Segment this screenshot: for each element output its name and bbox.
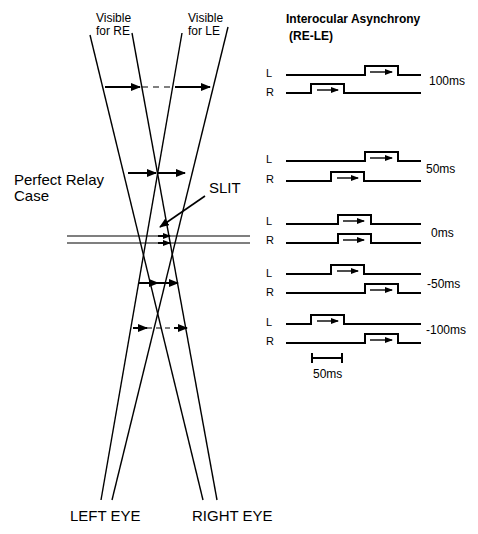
asynchrony-label: 50ms <box>426 163 455 176</box>
relay-diagram <box>0 0 478 534</box>
re-left-line <box>90 35 203 500</box>
scale-bar-label: 50ms <box>313 368 342 381</box>
trace-label-r: R <box>266 287 274 299</box>
motion-arrows <box>105 87 210 328</box>
trace-label-l: L <box>266 317 272 329</box>
asynchrony-label: -50ms <box>427 278 460 291</box>
trace-label-r: R <box>266 174 274 186</box>
trace-label-r: R <box>266 336 274 348</box>
sight-lines <box>90 27 228 500</box>
trace-label-l: L <box>266 216 272 228</box>
timing-traces <box>286 66 421 343</box>
asynchrony-label: -100ms <box>426 324 466 337</box>
slit-lines <box>67 236 250 243</box>
le-right-line <box>112 27 228 500</box>
perfect-relay-label: Perfect Relay Case <box>14 172 104 204</box>
timing-title: Interocular Asynchrony <box>286 13 420 26</box>
asynchrony-label: 0ms <box>431 227 454 240</box>
trace-label-r: R <box>266 235 274 247</box>
re-right-line <box>132 33 217 500</box>
trace-arrows <box>317 72 392 340</box>
trace-label-l: L <box>266 268 272 280</box>
slit-label: SLIT <box>209 180 241 196</box>
right-eye-label: RIGHT EYE <box>192 508 273 524</box>
scale-bar <box>312 353 342 363</box>
slit-pointer <box>160 196 205 227</box>
left-eye-label: LEFT EYE <box>70 508 141 524</box>
trace-label-l: L <box>266 154 272 166</box>
visible-re-label: Visible for RE <box>96 12 131 37</box>
timing-subtitle: (RE-LE) <box>289 30 333 43</box>
asynchrony-label: 100ms <box>429 75 465 88</box>
trace-label-r: R <box>266 87 274 99</box>
trace-label-l: L <box>266 68 272 80</box>
visible-le-label: Visible for LE <box>188 12 223 37</box>
